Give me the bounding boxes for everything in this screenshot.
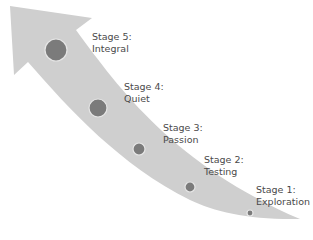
stage-4-label: Stage 4: Quiet xyxy=(124,81,164,105)
stage-3-name: Passion xyxy=(163,134,203,146)
stage-1-title: Stage 1: xyxy=(256,184,310,196)
stage-4-name: Quiet xyxy=(124,93,164,105)
stage-2-label: Stage 2: Testing xyxy=(204,154,244,178)
stage-1-name: Exploration xyxy=(256,196,310,208)
stage-5-marker xyxy=(45,39,67,61)
stage-4-marker xyxy=(89,99,107,117)
stage-1-marker xyxy=(247,210,253,216)
stage-1-label: Stage 1: Exploration xyxy=(256,184,310,208)
stage-5-name: Integral xyxy=(92,43,132,55)
stage-2-name: Testing xyxy=(204,166,244,178)
stage-3-title: Stage 3: xyxy=(163,122,203,134)
stage-3-marker xyxy=(133,143,145,155)
stage-5-title: Stage 5: xyxy=(92,31,132,43)
stage-4-title: Stage 4: xyxy=(124,81,164,93)
stage-5-label: Stage 5: Integral xyxy=(92,31,132,55)
stage-3-label: Stage 3: Passion xyxy=(163,122,203,146)
stage-2-marker xyxy=(185,182,195,192)
stage-2-title: Stage 2: xyxy=(204,154,244,166)
